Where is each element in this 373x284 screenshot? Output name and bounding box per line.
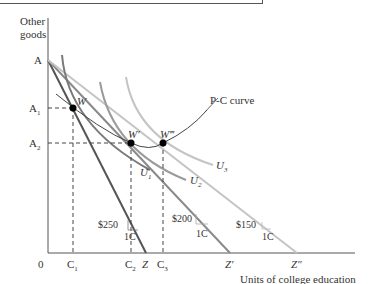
origin-label: 0 xyxy=(38,258,44,270)
tick-label-z-prime: Z′ xyxy=(225,258,234,270)
slope-unit-150: 1C xyxy=(262,231,274,242)
tick-label-c1: C1 xyxy=(67,258,78,273)
slope-unit-200: 1C xyxy=(196,228,208,239)
point-w-prime xyxy=(128,140,135,147)
x-axis-label: Units of college education xyxy=(240,273,356,284)
tick-label-a2: A2 xyxy=(29,137,41,152)
point-label-w-prime: W′ xyxy=(128,128,140,140)
tick-label-a1: A1 xyxy=(29,102,41,117)
point-w xyxy=(70,105,77,112)
tick-label-c2: C2 xyxy=(125,258,136,273)
y-axis-label-line1: Other xyxy=(20,15,45,27)
price-consumption-diagram: Other goods A A1 A2 0 C1 C2 Z C3 Z′ Z″ U… xyxy=(0,0,373,284)
slope-price-250: $250 xyxy=(98,219,118,230)
budget-line-z-double-prime xyxy=(48,60,297,253)
slope-price-200: $200 xyxy=(172,213,192,224)
budget-line-z xyxy=(48,60,146,253)
tick-label-z-double-prime: Z″ xyxy=(291,258,302,270)
slope-price-150: $150 xyxy=(236,219,256,230)
tick-label-a: A xyxy=(34,54,42,66)
pc-curve-label: P-C curve xyxy=(210,94,254,106)
slope-unit-250: 1C xyxy=(124,231,136,242)
point-label-w-triple-prime: W‴ xyxy=(160,128,175,140)
y-axis-label-line2: goods xyxy=(20,28,46,40)
point-label-w: W xyxy=(77,95,87,107)
u3-label: U3 xyxy=(216,159,228,174)
point-w-triple-prime xyxy=(160,140,167,147)
tick-label-z: Z xyxy=(142,258,149,270)
tick-label-c3: C3 xyxy=(157,258,168,273)
u2-label: U2 xyxy=(190,174,202,189)
